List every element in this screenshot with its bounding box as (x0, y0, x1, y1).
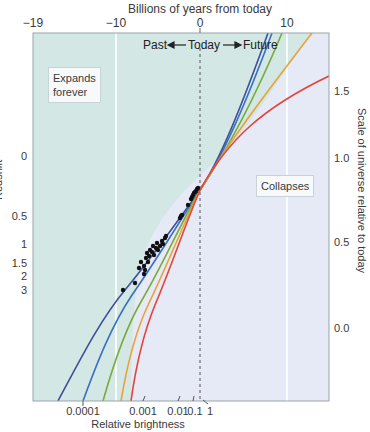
top-axis-title: Billions of years from today (128, 2, 272, 16)
bottom-axis-title: Relative brightness (91, 418, 185, 430)
redshift-tick-3: 3 (21, 284, 27, 296)
redshift-tick-1: 1 (21, 238, 27, 250)
expands-line2: forever (53, 85, 96, 99)
scale-tick-0-0: 0.0 (334, 322, 349, 334)
top-tick-minus10: −10 (106, 16, 126, 30)
past-label: Past (143, 38, 167, 52)
collapses-label: Collapses (256, 175, 314, 197)
scale-tick-1-0: 1.0 (334, 152, 349, 164)
top-tick-0: 0 (197, 16, 204, 30)
scale-tick-0-5: 0.5 (334, 236, 349, 248)
future-label: Future (243, 38, 278, 52)
left-axis-title: Redshift (0, 160, 4, 200)
expands-forever-label: Expands forever (48, 67, 101, 103)
brightness-tick-0-01: 0.01 (167, 405, 188, 417)
brightness-tick-0-001: 0.001 (129, 405, 157, 417)
brightness-tick-1: 1 (207, 405, 213, 417)
redshift-tick-0: 0 (21, 150, 27, 162)
redshift-tick-1-5: 1.5 (12, 257, 27, 269)
right-axis-title: Scale of universe relative to today (356, 108, 368, 273)
top-tick-10: 10 (280, 16, 293, 30)
scale-tick-1-5: 1.5 (334, 85, 349, 97)
cosmology-chart (0, 0, 370, 432)
expands-line1: Expands (53, 71, 96, 85)
brightness-tick-0-1: 0.1 (187, 405, 202, 417)
top-tick-minus19: −19 (23, 16, 43, 30)
redshift-tick-2: 2 (21, 270, 27, 282)
brightness-tick-0-0001: 0.0001 (66, 405, 100, 417)
today-label: Today (188, 38, 220, 52)
redshift-tick-0-5: 0.5 (12, 210, 27, 222)
